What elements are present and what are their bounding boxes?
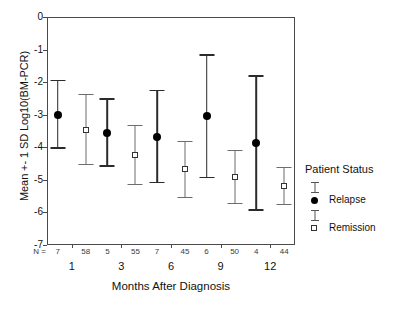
x-axis-tick-label-9: 9	[201, 260, 241, 272]
y-axis-tick-label: -4	[17, 142, 43, 152]
y-axis-tick-label: 0	[17, 12, 43, 22]
error-bar-cap-upper	[100, 98, 115, 100]
chart-figure: Mean +- 1 SD Log10(BM-PCR) 0-1-2-3-4-5-6…	[0, 0, 394, 309]
y-axis-tick-label: -6	[17, 207, 43, 217]
y-axis-tick-mark	[43, 245, 47, 246]
error-bar-cap-lower	[249, 209, 264, 211]
error-bar-cap-lower	[50, 147, 65, 149]
legend-entry-remission: Remission	[305, 209, 394, 237]
data-point-relapse-3	[103, 129, 111, 137]
x-axis-tick-label-6: 6	[151, 260, 191, 272]
error-bar-cap-lower	[178, 197, 193, 198]
error-bar-cap-lower	[199, 177, 214, 179]
legend-label: Relapse	[329, 194, 366, 205]
x-axis-tick-label-3: 3	[101, 260, 141, 272]
data-point-remission-12	[281, 183, 287, 189]
sample-size-relapse-6: 7	[145, 247, 169, 256]
error-bar-cap-lower	[150, 182, 165, 184]
error-bar-cap-upper	[50, 80, 65, 82]
error-bar-cap-upper	[128, 125, 143, 126]
legend-entry-relapse: Relapse	[305, 181, 394, 209]
sample-size-remission-1: 58	[74, 247, 98, 256]
data-point-remission-1	[83, 127, 89, 133]
x-axis-tick-label-12: 12	[250, 260, 290, 272]
sample-size-row: N = 758555745650444	[0, 247, 394, 259]
error-bar-cap-upper	[150, 90, 165, 92]
data-point-remission-6	[182, 166, 188, 172]
error-bar-cap-lower	[78, 164, 93, 165]
sample-size-relapse-3: 5	[95, 247, 119, 256]
data-point-remission-9	[232, 174, 238, 180]
legend-error-bar-icon	[311, 182, 319, 193]
error-bar-cap-upper	[249, 75, 264, 77]
error-bar-cap-lower	[100, 165, 115, 167]
legend-open-square-icon	[311, 225, 317, 231]
error-bar-cap-upper	[199, 54, 214, 56]
data-point-relapse-1	[54, 111, 62, 119]
x-axis-label: Months After Diagnosis	[47, 280, 295, 292]
legend-entries: RelapseRemission	[305, 181, 394, 237]
data-point-relapse-12	[252, 139, 260, 147]
data-point-remission-3	[132, 152, 138, 158]
error-bar-cap-upper	[227, 150, 242, 151]
sample-size-remission-3: 55	[123, 247, 147, 256]
sample-size-remission-12: 44	[272, 247, 296, 256]
error-bar-cap-upper	[277, 167, 292, 168]
x-axis-tick-mark	[72, 245, 73, 248]
legend-filled-circle-icon	[311, 197, 318, 204]
data-point-relapse-6	[153, 133, 161, 141]
legend-error-bar-icon	[311, 210, 319, 221]
error-bar-cap-lower	[227, 203, 242, 204]
y-axis-tick-label: -5	[17, 175, 43, 185]
sample-size-remission-6: 45	[173, 247, 197, 256]
sample-size-remission-9: 50	[223, 247, 247, 256]
x-axis-tick-mark	[270, 245, 271, 248]
legend: Patient Status RelapseRemission	[305, 163, 394, 237]
legend-title: Patient Status	[305, 163, 394, 175]
y-axis-tick-label: -1	[17, 45, 43, 55]
data-point-relapse-9	[203, 112, 211, 120]
y-axis-tick-label: -2	[17, 77, 43, 87]
x-axis-tick-mark	[221, 245, 222, 248]
sample-size-prefix: N =	[20, 247, 46, 256]
x-axis-tick-mark	[171, 245, 172, 248]
y-axis-tick-label: -3	[17, 110, 43, 120]
error-bar-cap-upper	[78, 94, 93, 95]
error-bar-cap-lower	[277, 204, 292, 205]
legend-label: Remission	[329, 222, 376, 233]
error-bar-cap-lower	[128, 184, 143, 185]
error-bar-cap-upper	[178, 141, 193, 142]
sample-size-relapse-12: 4	[244, 247, 268, 256]
x-axis-tick-label-1: 1	[52, 260, 92, 272]
sample-size-relapse-1: 7	[46, 247, 70, 256]
sample-size-relapse-9: 6	[195, 247, 219, 256]
x-axis-tick-mark	[121, 245, 122, 248]
